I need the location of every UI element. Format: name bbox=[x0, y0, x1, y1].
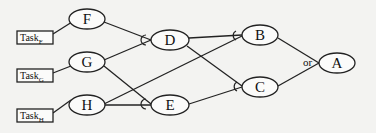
svg-text:G: G bbox=[82, 54, 93, 70]
svg-text:C: C bbox=[255, 79, 265, 95]
and-arc-e bbox=[141, 99, 146, 109]
node-b: B bbox=[242, 25, 278, 45]
edge-b-a bbox=[278, 38, 319, 63]
or-label: or bbox=[303, 56, 313, 68]
svg-text:D: D bbox=[165, 32, 176, 48]
node-a: A bbox=[319, 53, 355, 73]
task-box-h: TaskH bbox=[17, 109, 53, 124]
edge-taskg-g bbox=[53, 66, 71, 73]
node-e: E bbox=[151, 95, 189, 115]
task-box-g: TaskG bbox=[17, 69, 53, 84]
task-box-f: TaskF bbox=[17, 31, 53, 46]
node-d: D bbox=[151, 30, 189, 50]
edge-taskf-f bbox=[53, 22, 72, 34]
svg-text:A: A bbox=[332, 55, 343, 71]
edge-e-c bbox=[189, 87, 242, 104]
node-h: H bbox=[69, 95, 105, 115]
node-c: C bbox=[242, 77, 278, 97]
edge-f-d bbox=[104, 22, 151, 40]
svg-text:E: E bbox=[165, 97, 174, 113]
node-g: G bbox=[69, 52, 105, 72]
edge-d-c bbox=[187, 46, 242, 86]
svg-text:H: H bbox=[82, 97, 93, 113]
svg-text:B: B bbox=[255, 27, 265, 43]
svg-text:F: F bbox=[83, 11, 91, 27]
edge-c-a bbox=[278, 63, 319, 86]
edge-taskh-h bbox=[53, 100, 71, 113]
node-f: F bbox=[69, 9, 105, 29]
goal-tree-diagram: TaskF TaskG TaskH F G H D E B C A or bbox=[0, 0, 376, 133]
and-arc-c bbox=[234, 82, 237, 91]
edge-g-d bbox=[104, 40, 151, 60]
